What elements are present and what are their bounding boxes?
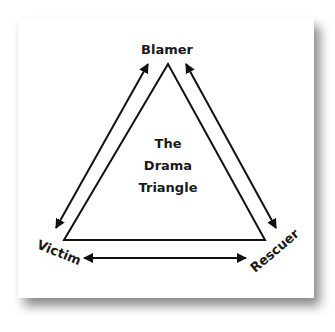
label-rescuer: Rescuer — [247, 226, 302, 276]
label-blamer: Blamer — [141, 42, 194, 57]
arrow-blamer-rescuer — [186, 64, 276, 228]
label-victim: Victim — [35, 237, 83, 268]
title-line-1: The — [155, 136, 182, 151]
title-line-3: Triangle — [139, 180, 198, 195]
arrow-victim-blamer — [56, 64, 148, 228]
drama-triangle-diagram: Blamer Victim Rescuer The Drama Triangle — [0, 0, 335, 332]
title-line-2: Drama — [144, 158, 192, 173]
